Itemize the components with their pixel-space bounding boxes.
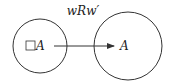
world-w-prime-formula: A — [119, 39, 129, 53]
world-w-formula: A — [35, 39, 45, 53]
relation-label: wRw′ — [67, 4, 100, 18]
box-icon — [26, 41, 35, 50]
kripke-diagram: wRw′ A A — [0, 0, 171, 82]
